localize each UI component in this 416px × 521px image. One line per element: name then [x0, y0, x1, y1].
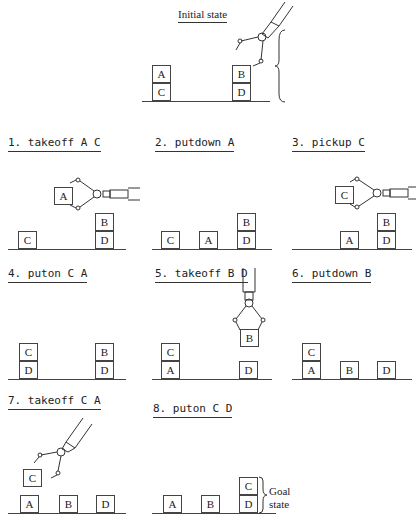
- blocks-world-diagram: Initial state A C B D 1. takeoff A C C B…: [0, 0, 416, 521]
- robot-grippers-icon: [0, 0, 416, 521]
